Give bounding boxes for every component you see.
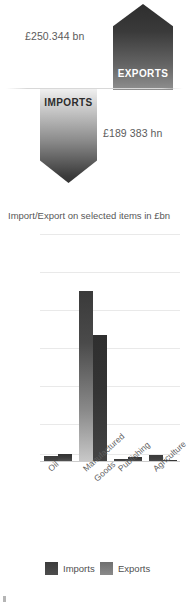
gridline (40, 424, 180, 425)
gridline (40, 348, 180, 349)
gridline (40, 386, 180, 387)
chart-title: Import/Export on selected items in £bn (8, 210, 170, 221)
legend-label-imports: Imports (63, 563, 95, 574)
gridline (40, 272, 180, 273)
legend-item-imports: Imports (45, 562, 95, 575)
arrows-infographic: £250.344 bn EXPORTS IMPORTS £189 383 hn (0, 0, 189, 190)
gridline (40, 310, 180, 311)
chart-plot-area: 30025020015010050100 OilManufacturedGood… (40, 234, 180, 462)
exports-value-label: £250.344 bn (25, 30, 85, 42)
bar-chart: Import/Export on selected items in £bn 3… (0, 190, 189, 606)
legend-label-exports: Exports (118, 563, 150, 574)
exports-arrow-label: EXPORTS (113, 68, 173, 79)
bar-exports-manufactured-goods (93, 335, 107, 462)
bar-imports-manufactured-goods (79, 291, 93, 462)
legend-item-exports: Exports (100, 562, 150, 575)
chart-legend: Imports Exports (0, 558, 189, 582)
imports-value-label: £189 383 hn (103, 127, 163, 139)
imports-arrow-label: IMPORTS (40, 97, 97, 108)
gridline (40, 234, 180, 235)
x-axis-tick-label: Publishing (116, 440, 152, 474)
page-edge-mark (3, 596, 6, 602)
legend-swatch-exports (100, 562, 113, 575)
horizontal-divider (6, 88, 183, 89)
legend-swatch-imports (45, 562, 58, 575)
